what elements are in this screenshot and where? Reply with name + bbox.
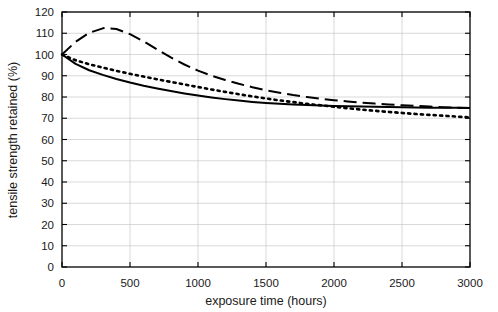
- y-tick-label: 80: [41, 91, 54, 103]
- x-tick-label: 1500: [253, 277, 279, 289]
- y-tick-label: 90: [41, 70, 54, 82]
- x-tick-label: 0: [59, 277, 65, 289]
- y-tick-label: 60: [41, 134, 54, 146]
- y-tick-label: 50: [41, 155, 54, 167]
- x-tick-label: 3000: [457, 277, 483, 289]
- y-tick-label: 0: [48, 261, 54, 273]
- x-tick-label: 2500: [389, 277, 415, 289]
- gridlines: [62, 12, 470, 267]
- y-tick-label: 100: [35, 49, 54, 61]
- x-tick-label: 500: [120, 277, 139, 289]
- x-axis-label: exposure time (hours): [205, 294, 327, 308]
- axis-tick-labels: 0102030405060708090100110120050010001500…: [35, 6, 483, 289]
- line-chart: 0102030405060708090100110120050010001500…: [0, 0, 498, 312]
- y-tick-label: 20: [41, 219, 54, 231]
- y-tick-label: 40: [41, 176, 54, 188]
- y-axis-label: tensile strength retained (%): [6, 62, 20, 218]
- x-tick-label: 2000: [321, 277, 347, 289]
- x-tick-label: 1000: [185, 277, 211, 289]
- chart-figure: 0102030405060708090100110120050010001500…: [0, 0, 498, 312]
- y-tick-label: 120: [35, 6, 54, 18]
- y-tick-label: 70: [41, 112, 54, 124]
- y-tick-label: 110: [36, 27, 54, 39]
- y-tick-label: 30: [41, 197, 54, 209]
- y-tick-label: 10: [41, 240, 54, 252]
